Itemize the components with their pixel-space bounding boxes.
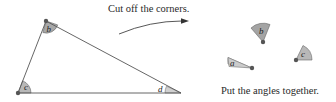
piece-b: b bbox=[251, 23, 270, 44]
vertex-b-dot bbox=[44, 19, 48, 23]
curved-arrow-icon bbox=[119, 18, 189, 34]
triangle-edge-bd bbox=[46, 21, 181, 93]
piece-a: a bbox=[228, 58, 254, 71]
instruction-put-angles-together: Put the angles together. bbox=[221, 86, 319, 97]
instruction-cut-corners: Cut off the corners. bbox=[108, 4, 189, 15]
angle-sum-diagram: b c d b c a Cut off the corners. Put the… bbox=[0, 0, 336, 102]
angle-c-label: c bbox=[24, 82, 28, 92]
angle-b-label: b bbox=[47, 24, 52, 34]
piece-c: c bbox=[294, 46, 312, 63]
triangle: b c d bbox=[16, 19, 181, 95]
svg-text:c: c bbox=[301, 49, 305, 59]
svg-text:b: b bbox=[259, 26, 264, 36]
vertex-c-dot bbox=[16, 91, 20, 95]
svg-text:a: a bbox=[230, 58, 235, 68]
triangle-edge-bc bbox=[18, 21, 46, 93]
angle-d-label: d bbox=[158, 84, 163, 94]
